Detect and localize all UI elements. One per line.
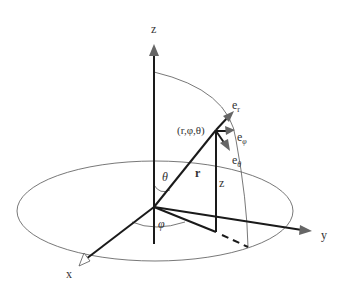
e-r-label: er	[232, 98, 240, 114]
x-axis	[86, 207, 154, 259]
y-axis	[154, 207, 302, 230]
r-vector	[154, 130, 216, 207]
theta-label: θ	[162, 170, 168, 184]
e-theta-label: eθ	[232, 153, 241, 169]
point-label: (r,φ,θ)	[177, 124, 205, 137]
spherical-coordinates-diagram: z y x (r,φ,θ) r z θ φ er eφ eθ	[0, 0, 346, 290]
projection-extension	[222, 235, 248, 247]
phi-label: φ	[158, 217, 165, 231]
diagram-svg: z y x (r,φ,θ) r z θ φ er eφ eθ	[0, 0, 346, 290]
x-axis-label: x	[66, 267, 72, 281]
height-label: z	[219, 176, 224, 190]
z-axis-label: z	[151, 22, 156, 36]
e-theta-arrow-head	[220, 139, 230, 151]
e-phi-label: eφ	[237, 130, 247, 146]
y-axis-label: y	[321, 228, 327, 242]
z-arrow-head	[149, 44, 159, 56]
y-arrow-head	[299, 225, 312, 235]
radius-label: r	[195, 166, 201, 180]
